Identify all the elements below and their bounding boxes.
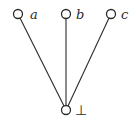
node-c-label: c: [121, 7, 129, 22]
node-bottom: ⊥: [62, 102, 88, 118]
node-a: a: [14, 7, 38, 22]
edge-bottom-c: [68, 18, 109, 106]
node-b-circle: [62, 10, 71, 19]
edges: [20, 18, 109, 106]
node-bottom-circle: [62, 106, 71, 115]
node-a-label: a: [30, 7, 38, 22]
hasse-diagram: a b c ⊥: [0, 0, 136, 126]
node-a-circle: [14, 10, 23, 19]
node-b: b: [62, 7, 85, 22]
node-bottom-label: ⊥: [75, 102, 87, 118]
node-b-label: b: [76, 7, 84, 22]
edge-bottom-a: [20, 18, 64, 106]
node-c: c: [107, 7, 130, 22]
node-c-circle: [107, 10, 116, 19]
